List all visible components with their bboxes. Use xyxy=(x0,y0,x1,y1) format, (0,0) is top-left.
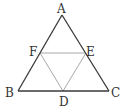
vertex-labels: A B C D E F xyxy=(5,2,120,109)
triangle-diagram: A B C D E F xyxy=(0,0,124,109)
label-b: B xyxy=(5,86,14,100)
segment-ed xyxy=(63,53,86,91)
segment-df xyxy=(40,53,63,91)
label-e: E xyxy=(86,45,95,59)
label-d: D xyxy=(59,95,69,109)
label-c: C xyxy=(111,86,120,100)
label-f: F xyxy=(29,45,37,59)
inner-triangle-def xyxy=(40,53,86,91)
label-a: A xyxy=(56,2,66,16)
